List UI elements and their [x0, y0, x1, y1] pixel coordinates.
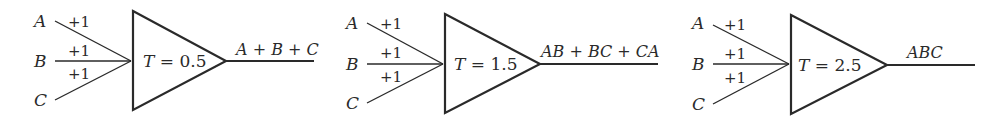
output-label: AB + BC + CA [539, 42, 660, 61]
weight-c: +1 [380, 68, 402, 86]
weight-c: +1 [68, 65, 90, 83]
input-label-b: B [691, 54, 705, 74]
output-label: A + B + C [234, 40, 319, 59]
neuron-and: A B C +1 +1 +1 T = 2.5 ABC [690, 13, 975, 114]
neuron-or: A B C +1 +1 +1 T = 0.5 A + B + C [32, 11, 319, 110]
input-label-c: C [692, 94, 705, 114]
weight-b: +1 [68, 42, 90, 60]
output-label: ABC [905, 43, 943, 62]
input-edge-c [367, 64, 443, 103]
input-label-a: A [32, 11, 46, 31]
threshold-text: T = 1.5 [454, 54, 517, 74]
weight-a: +1 [380, 15, 402, 33]
input-label-a: A [344, 13, 358, 33]
weight-c: +1 [724, 69, 746, 87]
weight-a: +1 [724, 16, 746, 34]
neuron-majority: A B C +1 +1 +1 T = 1.5 AB + BC + CA [344, 13, 660, 113]
input-edge-a [55, 21, 131, 61]
weight-a: +1 [68, 13, 90, 31]
input-label-c: C [346, 93, 359, 113]
input-label-b: B [33, 51, 47, 71]
input-label-b: B [345, 54, 359, 74]
weight-b: +1 [380, 44, 402, 62]
input-label-a: A [690, 13, 704, 33]
input-edge-c [55, 61, 131, 100]
weight-b: +1 [724, 45, 746, 63]
threshold-gates-diagram: A B C +1 +1 +1 T = 0.5 A + B + C A B C +… [0, 0, 1001, 124]
input-edge-a [367, 23, 443, 64]
threshold-text: T = 0.5 [143, 51, 206, 71]
input-label-c: C [34, 90, 47, 110]
threshold-text: T = 2.5 [798, 55, 861, 75]
